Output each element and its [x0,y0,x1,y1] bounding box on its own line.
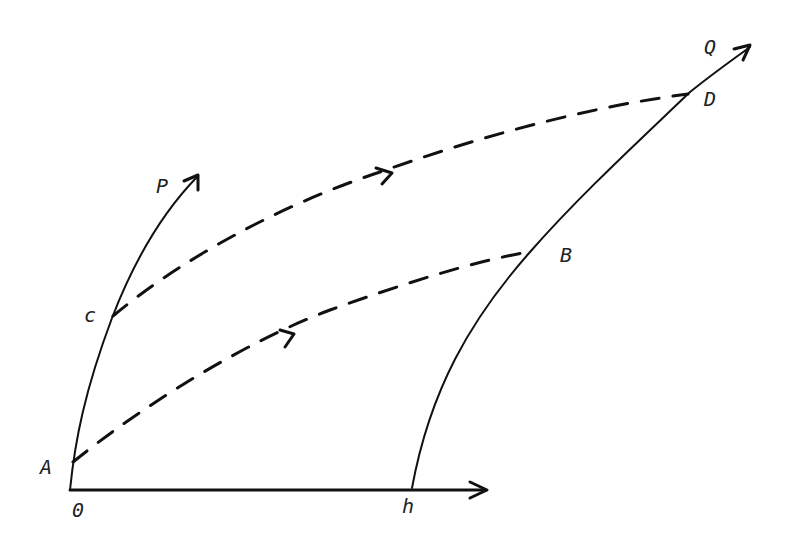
label-d: D [703,87,716,111]
diagram-canvas: 0 h A c P B D Q [0,0,790,554]
label-p: P [156,174,168,198]
curve-OP [70,175,198,490]
label-q: Q [704,35,716,59]
path-AB [73,251,533,462]
label-origin: 0 [72,498,84,522]
x-axis [70,482,487,498]
path-ab-direction-arrow-icon [280,330,294,347]
label-a: A [38,455,52,479]
curve-hQ [412,45,750,488]
path-cd-direction-arrow-icon [376,168,392,184]
label-c: c [84,303,96,327]
label-h: h [402,494,414,518]
label-b: B [560,243,572,267]
path-cD [113,94,688,316]
